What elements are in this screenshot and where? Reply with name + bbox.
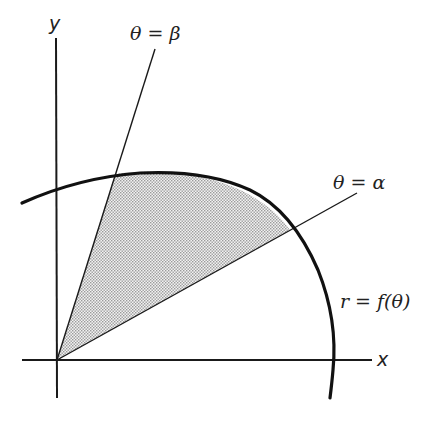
y-axis-label: y [48, 12, 61, 34]
ray-beta-label: θ = β [130, 22, 180, 44]
y-axis [56, 38, 57, 398]
ray-alpha-label: θ = α [333, 171, 385, 193]
curve-label: r = f(θ) [340, 290, 410, 312]
x-axis-label: x [376, 348, 389, 370]
polar-area-diagram: y x θ = β θ = α r = f(θ) [0, 0, 431, 424]
shaded-region [57, 172, 290, 360]
